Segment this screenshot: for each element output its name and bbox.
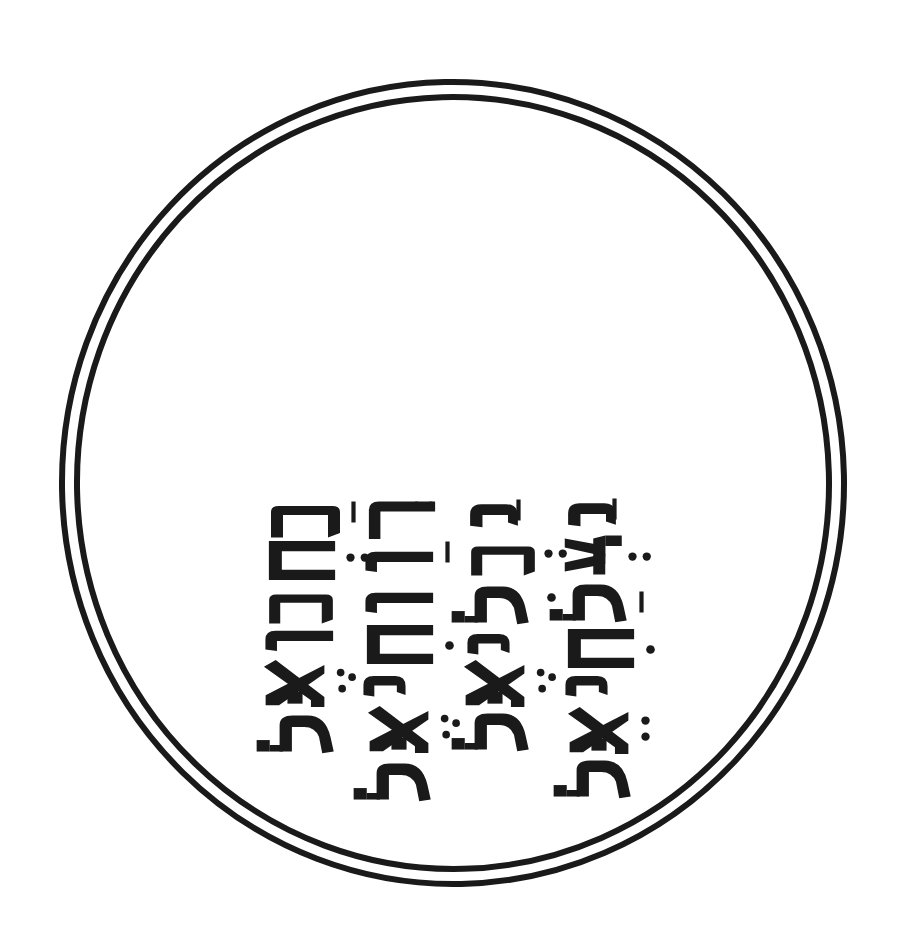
inscription-column-1	[257, 502, 369, 754]
mark-one-dot	[646, 645, 655, 654]
mark-three-dot	[337, 669, 356, 693]
glyph-step-curve	[554, 760, 631, 798]
glyph-cross-x	[464, 660, 524, 707]
mark-bar	[445, 542, 449, 563]
inscription-column-2	[354, 501, 460, 801]
glyph-arch-flat-top	[471, 547, 535, 576]
glyph-bracket-c	[568, 629, 634, 668]
glyph-arch-flat-top	[271, 506, 340, 538]
glyph-step-curve	[550, 584, 627, 622]
glyph-small-hook	[363, 676, 405, 696]
seal-canvas: Circular seal impression Monochrome line…	[0, 0, 910, 946]
mark-one-dot	[547, 593, 556, 602]
mark-three-dot	[537, 669, 556, 693]
glyph-cross-x	[368, 706, 428, 753]
glyph-small-hook	[568, 503, 616, 526]
mark-one-dot	[445, 641, 454, 650]
glyph-hook-right	[365, 593, 433, 613]
seal-drawing	[0, 0, 910, 946]
seal-inscription	[257, 499, 655, 802]
mark-two-dot	[628, 552, 651, 560]
inscription-column-4	[550, 499, 655, 799]
glyph-small-hook	[467, 634, 509, 654]
seal-border	[54, 74, 853, 892]
glyph-arch-flat-top	[269, 595, 333, 624]
glyph-corner-tall	[369, 502, 435, 539]
glyph-cross-x	[568, 707, 628, 754]
mark-bar	[351, 502, 355, 523]
glyph-small-hook	[565, 676, 607, 696]
glyph-arrow-x	[565, 536, 622, 575]
glyph-small-hook	[470, 504, 518, 527]
mark-two-dot	[544, 549, 567, 557]
glyph-bracket-c	[269, 541, 335, 580]
glyph-step-curve	[452, 586, 529, 624]
glyph-bracket-c	[367, 625, 433, 664]
mark-bar	[612, 499, 616, 520]
mark-bar	[516, 500, 520, 521]
inscription-column-3	[452, 500, 567, 752]
glyph-hook-right	[265, 631, 333, 651]
mark-two-dot-v	[641, 716, 649, 740]
glyph-hook-right	[365, 552, 433, 572]
glyph-step-curve	[257, 715, 334, 753]
mark-bar	[639, 592, 643, 613]
seal-outer-ring	[54, 74, 853, 892]
glyph-step-curve	[452, 713, 529, 751]
mark-three-dot	[441, 715, 460, 739]
glyph-step-curve	[354, 763, 431, 801]
seal-inner-ring	[66, 87, 839, 880]
glyph-cross-x	[264, 660, 324, 707]
